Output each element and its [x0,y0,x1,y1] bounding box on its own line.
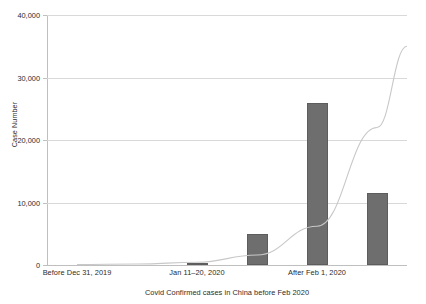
trendline-path [77,46,407,264]
y-tick-label-20000: 20,000 [17,136,40,145]
y-tick-label-40000: 40,000 [17,11,40,20]
covid-case-bar-chart: Case Number 0 10,000 20,000 30,000 40,00… [0,0,426,304]
y-tick-label-10000: 10,000 [17,198,40,207]
plot-area [47,15,407,265]
x-tick-label-before-dec-31-2019: Before Dec 31, 2019 [43,268,112,277]
y-axis-tick-labels: 0 10,000 20,000 30,000 40,000 [0,0,44,304]
x-axis-tick-labels: Before Dec 31, 2019 Jan 11–20, 2020 Afte… [47,268,407,284]
x-axis-line [47,265,407,266]
x-tick-label-jan-11-20-2020: Jan 11–20, 2020 [169,268,224,277]
trendline [47,15,407,265]
y-tick-label-30000: 30,000 [17,73,40,82]
x-tick-label-after-feb-1-2020: After Feb 1, 2020 [288,268,346,277]
y-tick-label-0: 0 [36,261,40,270]
x-axis-title: Covid Confirmed cases in China before Fe… [47,288,407,297]
